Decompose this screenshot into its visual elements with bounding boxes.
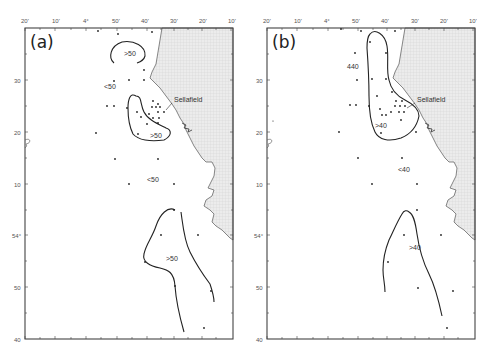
top-axis-label: 20' <box>440 18 448 24</box>
left-axis-labels: 30 20 10 54° 50 40 <box>12 78 22 343</box>
top-axis-label: 4° <box>324 18 330 24</box>
top-axis-label: 50' <box>112 18 120 24</box>
top-axis-label: 40' <box>141 18 149 24</box>
top-axis-label: 10' <box>469 18 477 24</box>
left-axis-label: 54° <box>12 233 22 239</box>
contour-label: >50 <box>150 132 162 139</box>
top-axis-label: 20' <box>263 18 271 24</box>
top-axis-label: 30' <box>170 18 178 24</box>
contour-label: >40 <box>375 122 387 129</box>
top-axis-labels: 20' 10' 4° 50' 40' 30' 20' 10' <box>263 18 477 24</box>
site-label-sellafield: Sellafield <box>174 96 203 103</box>
left-axis-label: 20 <box>14 130 21 136</box>
top-axis-label: 20' <box>199 18 207 24</box>
contour-label: >50 <box>166 255 178 262</box>
contour-label: >40 <box>409 244 421 251</box>
land-mass <box>150 28 233 240</box>
left-axis-labels: 30 20 10 54° 50 40 <box>254 78 264 343</box>
contour-label: 440 <box>347 63 359 70</box>
left-axis-label: 10 <box>14 182 21 188</box>
left-axis-label: 40 <box>256 337 263 343</box>
contour-label: <50 <box>147 176 159 183</box>
left-axis-label: 30 <box>256 78 263 84</box>
contour-south <box>144 209 184 332</box>
top-axis-label: 50' <box>352 18 360 24</box>
contour-south-east <box>409 212 442 316</box>
land-mass <box>393 28 475 240</box>
contour-south-east <box>181 212 214 302</box>
top-axis-label: 10' <box>294 18 302 24</box>
left-axis-label: 50 <box>14 285 21 291</box>
top-axis-labels: 20' 10' 4° 50' 40' 30' 20' 10' <box>21 18 236 24</box>
island-outline <box>267 139 272 148</box>
panel-letter: (a) <box>30 32 54 52</box>
left-axis-label: 50 <box>256 285 263 291</box>
left-axis-label: 40 <box>14 337 21 343</box>
top-axis-label: 10' <box>52 18 60 24</box>
map-panel-b: 20' 10' 4° 50' 40' 30' 20' 10' 30 20 10 … <box>239 0 477 359</box>
top-axis-label: 30' <box>411 18 419 24</box>
island-outline <box>25 139 30 148</box>
contour-label: <40 <box>398 166 410 173</box>
left-axis-label: 10 <box>256 182 263 188</box>
left-axis-label: 54° <box>254 233 264 239</box>
site-label-sellafield: Sellafield <box>417 96 446 103</box>
contour-south-cap <box>402 211 409 214</box>
map-panel-a: 20' 10' 4° 50' 40' 30' 20' 10' 30 20 10 … <box>0 0 238 359</box>
contour-south-west <box>383 214 402 292</box>
site-leader-line <box>166 103 172 110</box>
panel-letter: (b) <box>272 32 296 52</box>
top-axis-label: 40' <box>381 18 389 24</box>
left-axis-label: 20 <box>256 130 263 136</box>
top-axis-label: 20' <box>21 18 29 24</box>
left-axis-label: 30 <box>14 78 21 84</box>
contour-label: >50 <box>124 50 136 57</box>
top-axis-label: 4° <box>83 18 89 24</box>
contour-label: <50 <box>104 83 116 90</box>
top-axis-label: 10' <box>228 18 236 24</box>
